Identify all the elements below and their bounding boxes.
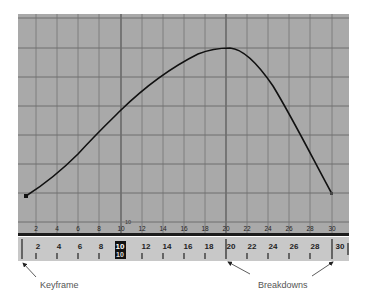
breakdowns-annotation: Breakdowns [258, 280, 308, 290]
annotation-arrows [0, 0, 367, 307]
keyframe-annotation: Keyframe [40, 280, 79, 290]
breakdown-arrow-30 [312, 262, 333, 276]
breakdown-arrow-20 [228, 262, 250, 274]
keyframe-arrow [23, 263, 36, 277]
